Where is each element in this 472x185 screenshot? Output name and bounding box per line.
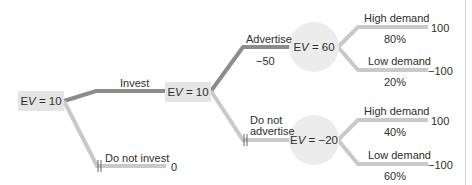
outcome-payoff: −100 xyxy=(428,65,453,77)
no-advertise-chance-node: EV = −20 xyxy=(289,115,339,165)
outcome-label: Low demand xyxy=(368,149,431,161)
invest-decision-node: EV = 10 xyxy=(165,82,211,102)
advertise-label: Advertise xyxy=(246,33,292,45)
ev-value: = −20 xyxy=(305,134,338,146)
right-border-divider xyxy=(465,0,466,185)
outcome-label: High demand xyxy=(364,105,429,117)
ev-prefix: E xyxy=(20,95,28,107)
outcome-label: High demand xyxy=(364,12,429,24)
outcome-probability: 80% xyxy=(384,33,406,45)
ev-var: V xyxy=(301,41,309,53)
ev-prefix: E xyxy=(293,41,301,53)
branch-high-demand-1 xyxy=(338,27,428,47)
ev-value: = 60 xyxy=(309,41,335,53)
do-not-advertise-label-line2: advertise xyxy=(250,125,295,137)
outcome-label: Low demand xyxy=(368,55,431,67)
ev-value: = 10 xyxy=(183,86,209,98)
branch-high-demand-2 xyxy=(338,120,428,140)
outcome-probability: 60% xyxy=(384,170,406,182)
ev-value: = 10 xyxy=(36,95,62,107)
do-not-invest-label: Do not invest xyxy=(105,152,169,164)
branch-advertise xyxy=(211,47,292,91)
outcome-probability: 40% xyxy=(384,126,406,138)
outcome-payoff: 100 xyxy=(431,22,449,34)
outcome-probability: 20% xyxy=(384,76,406,88)
ev-var: V xyxy=(175,86,183,98)
branch-invest xyxy=(64,91,166,101)
outcome-payoff: −100 xyxy=(428,159,453,171)
ev-var: V xyxy=(28,95,36,107)
invest-label: Invest xyxy=(120,77,149,89)
do-not-invest-payoff: 0 xyxy=(171,161,177,173)
root-decision-node: EV = 10 xyxy=(18,91,64,111)
outcome-payoff: 100 xyxy=(431,115,449,127)
ev-prefix: E xyxy=(167,86,175,98)
advertise-cost: −50 xyxy=(256,55,275,67)
advertise-chance-node: EV = 60 xyxy=(289,22,339,72)
